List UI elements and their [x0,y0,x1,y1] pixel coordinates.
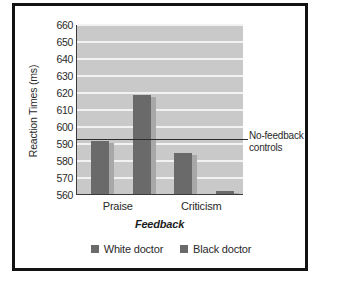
y-axis-title: Reaction Times (ms) [27,51,39,171]
x-axis-tick-praise: Praise [76,200,160,212]
legend-swatch-icon [91,245,99,253]
no-feedback-reference-line [76,139,248,140]
y-axis-tick-620: 620 [40,87,73,99]
y-axis-tick-640: 640 [40,53,73,65]
plot-area [76,25,243,195]
bar-criticism-white-doctor [174,153,192,194]
y-axis-tick-560: 560 [40,189,73,201]
bar-criticism-black-doctor [216,191,234,194]
chart-legend: White doctorBlack doctor [76,243,266,255]
y-axis-tick-610: 610 [40,104,73,116]
gridline-660 [77,24,243,26]
y-axis-tick-660: 660 [40,19,73,31]
legend-entry-white-doctor[interactable]: White doctor [91,243,163,255]
x-axis-title: Feedback [76,218,243,230]
gridline-620 [77,92,243,94]
y-axis-tick-580: 580 [40,155,73,167]
y-axis-tick-630: 630 [40,70,73,82]
y-axis-tick-570: 570 [40,172,73,184]
annotation-line-1: No-feedback [249,130,319,143]
gridline-630 [77,75,243,77]
legend-label: Black doctor [193,243,251,255]
annotation-line-2: controls [249,142,319,155]
gridline-650 [77,41,243,43]
legend-entry-black-doctor[interactable]: Black doctor [180,243,251,255]
no-feedback-annotation-label: No-feedback controls [249,130,319,155]
y-axis-tick-labels: 560570580590600610620630640650660 [40,25,73,195]
gridline-610 [77,109,243,111]
y-axis-tick-650: 650 [40,36,73,48]
bar-praise-white-doctor [91,141,109,194]
gridline-600 [77,126,243,128]
bar-praise-black-doctor [133,95,151,194]
gridline-640 [77,58,243,60]
legend-swatch-icon [180,245,188,253]
legend-label: White doctor [104,243,163,255]
bar-chart: Reaction Times (ms) 56057058059060061062… [0,0,343,286]
y-axis-tick-590: 590 [40,138,73,150]
x-axis-tick-criticism: Criticism [160,200,244,212]
y-axis-tick-600: 600 [40,121,73,133]
